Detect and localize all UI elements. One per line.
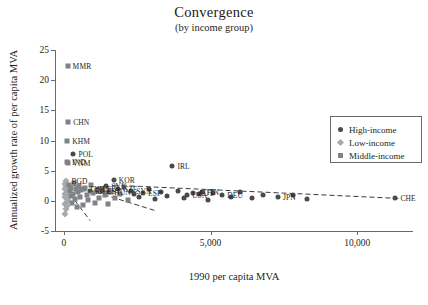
data-point-label-usa: USA [192,190,207,199]
diamond-marker-icon [337,139,344,146]
data-point-label-khm: KHM [72,137,90,146]
x-tick-label: 10,000 [344,238,370,248]
y-tick-label: -5 [41,226,49,236]
x-axis-label: 1990 per capita MVA [55,271,413,282]
legend-box: High-incomeLow-incomeMiddle-income [330,116,422,163]
y-tick-label: 0 [44,196,49,206]
circle-marker-icon [338,127,343,132]
y-tick-label: 25 [40,45,50,55]
legend-label: High-income [349,125,397,135]
convergence-scatter-figure: Convergence (by income group) Annualized… [0,0,428,305]
x-axis-line [55,231,413,232]
legend-label: Low-income [349,138,395,148]
chart-title: Convergence [0,4,428,21]
legend-item-low[interactable]: Low-income [338,136,395,149]
data-point-label-chn: CHN [73,118,89,127]
legend-label: Middle-income [349,151,405,161]
data-point-label-mmr: MMR [73,62,92,71]
data-point-label-fin: FIN [207,187,219,196]
square-marker-icon [338,153,343,158]
data-point-label-jpn: JPN [283,192,296,201]
x-tick-label: 0 [61,238,66,248]
data-point-label-bgd: BGD [71,176,87,185]
x-tick-label: 5,000 [200,238,221,248]
legend-item-high[interactable]: High-income [338,123,397,136]
data-point-label-hun: HUN [114,187,131,196]
data-point-label-che: CHE [400,193,415,202]
y-tick-label: 10 [40,136,50,146]
y-tick-label: 15 [40,105,50,115]
x-tick [357,231,358,235]
y-tick-label: 5 [44,166,49,176]
chart-subtitle: (by income group) [0,22,428,33]
data-point-label-deu: DEU [227,190,243,199]
y-tick-label: 20 [40,75,50,85]
x-tick [64,231,65,235]
x-tick [211,231,212,235]
y-tick [51,231,55,232]
data-point-label-vnm: VNM [73,158,91,167]
y-axis-label: Annualized growth rate of per capita MVA [8,50,22,230]
low-income-fit [65,188,90,221]
legend-item-middle[interactable]: Middle-income [338,149,405,162]
data-point-label-esp: ESP [148,188,161,197]
data-point-label-irl: IRL [177,162,189,171]
